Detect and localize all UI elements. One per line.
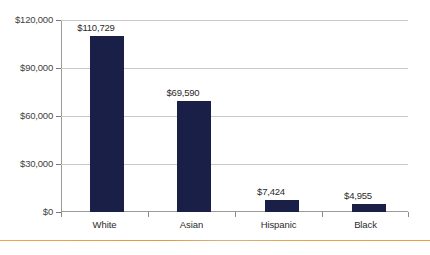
bar-value-label-asian: $69,590 <box>147 87 219 98</box>
x-axis-label-black: Black <box>322 219 409 231</box>
bar-rect-asian <box>177 101 211 212</box>
y-axis-tick-label-60000: $60,000 <box>0 111 53 121</box>
bar-white <box>90 36 124 212</box>
gridline-120000 <box>61 20 408 21</box>
bar-rect-black <box>352 204 386 212</box>
bar-hispanic <box>265 200 299 212</box>
bar-value-label-white: $110,729 <box>60 22 132 33</box>
bar-rect-white <box>90 36 124 212</box>
plot-area <box>61 20 408 212</box>
bar-chart-figure: $120,000 $90,000 $60,000 $30,000 $0 <box>0 0 430 255</box>
bar-black <box>352 204 386 212</box>
x-axis-label-asian: Asian <box>148 219 235 231</box>
x-axis-label-hispanic: Hispanic <box>235 219 322 231</box>
bar-value-label-black: $4,955 <box>322 190 394 201</box>
bottom-accent-rule <box>0 240 430 241</box>
y-axis-tick-label-120000: $120,000 <box>0 15 53 25</box>
y-axis-tick-label-90000: $90,000 <box>0 63 53 73</box>
x-axis-label-white: White <box>61 219 148 231</box>
x-axis-tick-mark-3 <box>322 212 323 217</box>
y-axis-tick-label-30000: $30,000 <box>0 159 53 169</box>
x-axis-tick-mark-4 <box>408 212 409 217</box>
x-axis-tick-mark-0 <box>61 212 62 217</box>
x-axis-tick-mark-2 <box>235 212 236 217</box>
y-axis-tick-label-0: $0 <box>0 207 53 217</box>
x-axis-tick-mark-1 <box>148 212 149 217</box>
bar-asian <box>177 101 211 212</box>
bar-value-label-hispanic: $7,424 <box>235 186 307 197</box>
bar-rect-hispanic <box>265 200 299 212</box>
